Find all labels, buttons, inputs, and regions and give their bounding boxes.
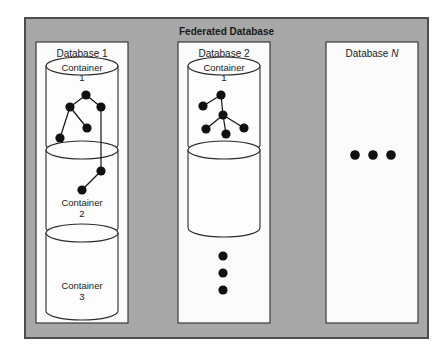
- database-panel-1[interactable]: Database 1Container1Container2Container3: [36, 42, 128, 323]
- graph-node[interactable]: [81, 90, 90, 99]
- federated-database-diagram: Federated Database Database 1Container1C…: [0, 0, 447, 356]
- container-label-line2: 3: [79, 291, 84, 302]
- container-label-line1: Container: [61, 280, 102, 291]
- ellipsis-horizontal: [350, 150, 396, 160]
- ellipsis-dot: [218, 268, 227, 277]
- ellipsis-dot: [350, 150, 360, 160]
- graph-node[interactable]: [201, 124, 210, 133]
- ellipsis-dot: [386, 150, 396, 160]
- graph-node[interactable]: [96, 102, 105, 111]
- container-label-line2: 2: [79, 208, 84, 219]
- database-panel-rect[interactable]: [326, 42, 418, 323]
- graph-node[interactable]: [198, 101, 207, 110]
- ellipsis-dot: [218, 251, 227, 260]
- database-panels-layer: Database 1Container1Container2Container3…: [36, 42, 418, 323]
- ellipsis-dot: [218, 285, 227, 294]
- graph-node[interactable]: [82, 123, 91, 132]
- diagram-canvas: Federated Database Database 1Container1C…: [0, 0, 447, 356]
- container-top-ellipse: [188, 141, 260, 159]
- diagram-title: Federated Database: [179, 26, 274, 37]
- graph-node[interactable]: [221, 129, 230, 138]
- container-label-line2: 1: [221, 72, 226, 83]
- graph-node[interactable]: [216, 90, 225, 99]
- database-label-text: Database: [346, 48, 392, 59]
- container-2[interactable]: [188, 141, 260, 237]
- container-body[interactable]: [188, 150, 260, 237]
- database-label: Database N: [346, 48, 400, 59]
- database-panel-2[interactable]: Database 2Container1: [178, 42, 270, 323]
- container-3[interactable]: Container3: [46, 224, 118, 320]
- container-top-ellipse: [46, 141, 118, 159]
- graph-node[interactable]: [96, 166, 105, 175]
- container-label-line1: Container: [61, 197, 102, 208]
- ellipsis-vertical: [218, 251, 227, 294]
- graph-node[interactable]: [77, 185, 86, 194]
- graph-node[interactable]: [55, 133, 64, 142]
- graph-node[interactable]: [65, 102, 74, 111]
- container-body[interactable]: [46, 233, 118, 320]
- ellipsis-dot: [368, 150, 378, 160]
- database-label-index: N: [391, 48, 399, 59]
- container-top-ellipse: [46, 224, 118, 242]
- container-label-line2: 1: [79, 72, 84, 83]
- graph-node[interactable]: [218, 110, 227, 119]
- graph-node[interactable]: [239, 123, 248, 132]
- diagram-title-layer: Federated Database: [179, 26, 274, 37]
- database-panel-3[interactable]: Database N: [326, 42, 418, 323]
